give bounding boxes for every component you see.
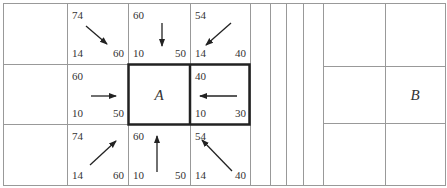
g-cost: 10	[133, 48, 144, 59]
f-cost: 60	[72, 71, 83, 82]
g-cost: 10	[133, 170, 144, 181]
g-cost: 10	[72, 108, 83, 119]
cell-r1c1: 60 10 50	[67, 64, 128, 124]
h-cost: 60	[113, 48, 124, 59]
f-cost: 74	[72, 131, 83, 142]
cell-r2c1: 74 14 60	[67, 124, 128, 186]
h-cost: 40	[235, 48, 246, 59]
start-node-label: A	[154, 87, 163, 104]
cell-r0c3: 54 14 40	[190, 3, 250, 64]
f-cost: 40	[195, 71, 206, 82]
astar-grid-diagram: 74 14 60 60 10 50 54 14 40 60 10 50 A 40…	[0, 0, 447, 188]
f-cost: 60	[133, 131, 144, 142]
cell-r2c3: 54 14 40	[190, 124, 250, 186]
h-cost: 60	[113, 170, 124, 181]
h-cost: 30	[235, 108, 246, 119]
h-cost: 50	[113, 108, 124, 119]
cell-r0c1: 74 14 60	[67, 3, 128, 64]
g-cost: 14	[72, 48, 83, 59]
f-cost: 54	[195, 131, 206, 142]
h-cost: 50	[175, 48, 186, 59]
cell-r2c2: 60 10 50	[128, 124, 190, 186]
f-cost: 54	[195, 10, 206, 21]
h-cost: 50	[175, 170, 186, 181]
g-cost: 10	[195, 108, 206, 119]
g-cost: 14	[195, 48, 206, 59]
cell-r1c3: 40 10 30	[190, 64, 250, 124]
g-cost: 14	[72, 170, 83, 181]
cell-r0c2: 60 10 50	[128, 3, 190, 64]
goal-node-label: B	[410, 87, 419, 104]
f-cost: 60	[133, 10, 144, 21]
f-cost: 74	[72, 10, 83, 21]
h-cost: 40	[235, 170, 246, 181]
g-cost: 14	[195, 170, 206, 181]
